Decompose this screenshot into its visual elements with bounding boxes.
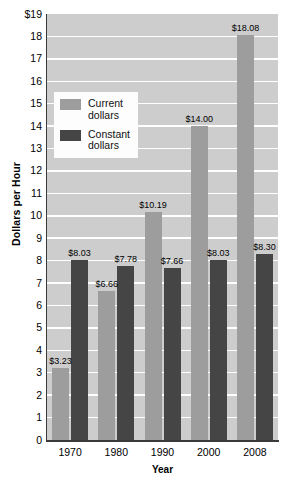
bar-value-label: $18.08: [225, 24, 265, 33]
bar: [52, 368, 69, 440]
bar-value-label: $14.00: [179, 115, 219, 124]
bar: [71, 260, 88, 440]
y-tick-label: 5: [2, 322, 42, 333]
bar-value-label: $7.78: [106, 255, 146, 264]
legend-label-constant: Constant dollars: [88, 129, 130, 153]
x-tick-label: 2008: [230, 446, 280, 458]
x-tick-label: 1970: [45, 446, 95, 458]
legend-swatch-current-icon: [60, 99, 81, 110]
bar-value-label: $7.66: [152, 257, 192, 266]
y-tick-label: 13: [2, 143, 42, 154]
bar: [98, 291, 115, 440]
y-tick-label: 7: [2, 278, 42, 289]
y-tick-label: 12: [2, 165, 42, 176]
y-tick-label: 16: [2, 76, 42, 87]
y-tick-label: 14: [2, 121, 42, 132]
bar-chart: Dollars per Hour $1918171615141312111098…: [0, 0, 290, 481]
bar: [210, 260, 227, 440]
legend-label-current: Current dollars: [88, 98, 123, 122]
y-axis-line: [46, 14, 48, 441]
legend-item-constant-dollars: Constant dollars: [60, 129, 130, 153]
bar: [237, 35, 254, 440]
y-tick-label: 8: [2, 255, 42, 266]
plot-area: [47, 14, 278, 440]
bar-value-label: $8.03: [198, 249, 238, 258]
bar-value-label: $8.03: [60, 249, 100, 258]
y-tick-label: 0: [2, 435, 42, 446]
y-tick-label: $19: [2, 9, 42, 20]
y-tick-label: 4: [2, 345, 42, 356]
y-tick-label: 15: [2, 98, 42, 109]
bar: [256, 254, 273, 440]
bar-value-label: $10.19: [133, 201, 173, 210]
y-tick-label: 1: [2, 412, 42, 423]
y-axis-title: Dollars per Hour: [10, 144, 22, 264]
y-tick-label: 2: [2, 390, 42, 401]
y-tick-label: 17: [2, 53, 42, 64]
y-tick-label: 9: [2, 233, 42, 244]
legend-swatch-constant-icon: [60, 130, 81, 141]
x-axis-title: Year: [47, 464, 278, 475]
y-tick-label: 11: [2, 188, 42, 199]
x-tick-label: 1980: [91, 446, 141, 458]
x-tick-label: 2000: [184, 446, 234, 458]
x-axis-line: [46, 440, 279, 442]
bar-value-label: $3.23: [41, 357, 81, 366]
bar-value-label: $8.30: [244, 243, 284, 252]
bar: [145, 212, 162, 440]
bar: [117, 266, 134, 440]
y-tick-label: 6: [2, 300, 42, 311]
bar: [164, 268, 181, 440]
y-tick-label: 10: [2, 210, 42, 221]
y-tick-label: 18: [2, 31, 42, 42]
bar-value-label: $6.66: [87, 280, 127, 289]
bar: [191, 126, 208, 440]
legend-item-current-dollars: Current dollars: [60, 98, 130, 122]
y-tick-label: 3: [2, 367, 42, 378]
x-tick-label: 1990: [138, 446, 188, 458]
chart-legend: Current dollars Constant dollars: [54, 92, 138, 158]
